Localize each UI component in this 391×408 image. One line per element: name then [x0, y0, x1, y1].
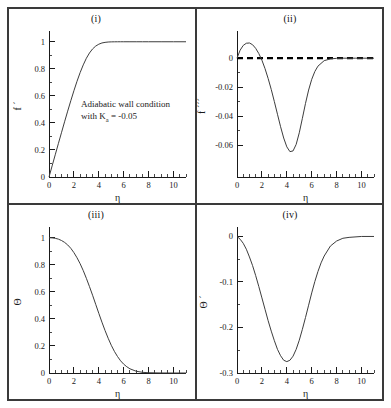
x-tick-label: 2 — [72, 376, 76, 386]
y-tick-label: 0.8 — [34, 64, 45, 74]
x-tick-label: 4 — [97, 180, 102, 190]
y-tick-label: 1 — [41, 233, 45, 243]
y-axis-title: Θ ´ — [198, 295, 209, 308]
x-axis-title: η — [303, 388, 308, 399]
x-tick-label: 4 — [285, 376, 290, 386]
y-axis-title: Θ — [12, 298, 23, 305]
y-tick-label: -0.2 — [220, 322, 233, 332]
x-tick-label: 6 — [310, 180, 314, 190]
x-axis-title: η — [115, 388, 120, 399]
x-axis-title: η — [115, 192, 120, 203]
x-tick-label: 10 — [357, 376, 366, 386]
y-tick-label: 0 — [229, 53, 233, 63]
y-axis-title: f ´´´ — [197, 98, 207, 114]
y-tick-label: -0.06 — [215, 140, 233, 150]
panel-ii-plot: 02468100-0.02-0.04-0.06ηf ´´´ — [197, 9, 383, 203]
y-tick-label: 0.8 — [34, 260, 45, 270]
x-tick-label: 0 — [235, 376, 239, 386]
y-tick-label: 0.6 — [34, 91, 45, 101]
x-tick-label: 10 — [169, 376, 178, 386]
x-tick-label: 8 — [147, 180, 151, 190]
x-tick-label: 0 — [47, 180, 51, 190]
y-tick-label: 1 — [41, 37, 45, 47]
figure-container: (i) 024681000.20.40.60.81ηf ´Adiabatic w… — [0, 0, 391, 408]
x-tick-label: 10 — [169, 180, 178, 190]
annotation-line-2: with Ka = -0.05 — [81, 111, 137, 123]
x-tick-label: 2 — [260, 180, 264, 190]
y-tick-label: 0 — [229, 231, 233, 241]
panel-i-plot: 024681000.20.40.60.81ηf ´Adiabatic wall … — [9, 9, 195, 203]
panel-iii-plot: 024681000.20.40.60.81ηΘ — [9, 205, 195, 399]
x-tick-label: 0 — [235, 180, 239, 190]
y-tick-label: 0.6 — [34, 287, 45, 297]
x-tick-label: 6 — [310, 376, 314, 386]
panel-i: (i) 024681000.20.40.60.81ηf ´Adiabatic w… — [9, 9, 195, 203]
x-tick-label: 4 — [97, 376, 102, 386]
x-tick-label: 6 — [122, 180, 126, 190]
y-axis-title: f ´ — [12, 101, 23, 110]
y-tick-label: -0.3 — [220, 368, 233, 378]
y-tick-label: -0.1 — [220, 277, 233, 287]
data-curve — [49, 42, 186, 177]
panel-iv-plot: 02468100-0.1-0.2-0.3ηΘ ´ — [197, 205, 383, 399]
y-tick-label: 0 — [41, 172, 45, 182]
panel-ii: (ii) 02468100-0.02-0.04-0.06ηf ´´´ — [197, 9, 383, 203]
y-tick-label: 0.4 — [34, 314, 45, 324]
y-tick-label: 0.2 — [34, 341, 45, 351]
x-tick-label: 8 — [335, 180, 339, 190]
panel-iii: (iii) 024681000.20.40.60.81ηΘ — [9, 205, 195, 399]
x-tick-label: 2 — [72, 180, 76, 190]
data-curve — [237, 236, 374, 361]
annotation-line-1: Adiabatic wall condition — [81, 99, 170, 109]
x-tick-label: 2 — [260, 376, 264, 386]
x-tick-label: 4 — [285, 180, 290, 190]
y-tick-label: -0.04 — [215, 111, 233, 121]
x-tick-label: 10 — [357, 180, 366, 190]
x-tick-label: 6 — [122, 376, 126, 386]
x-tick-label: 8 — [147, 376, 151, 386]
data-curve — [49, 238, 186, 373]
y-tick-label: 0 — [41, 368, 45, 378]
y-tick-label: -0.02 — [215, 82, 233, 92]
y-tick-label: 0.2 — [34, 145, 45, 155]
y-tick-label: 0.4 — [34, 118, 45, 128]
panel-iv: (iv) 02468100-0.1-0.2-0.3ηΘ ´ — [197, 205, 383, 399]
x-axis-title: η — [303, 192, 308, 203]
x-tick-label: 0 — [47, 376, 51, 386]
x-tick-label: 8 — [335, 376, 339, 386]
